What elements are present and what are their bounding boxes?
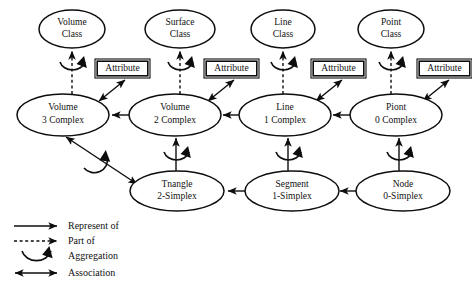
simplex-node-node[interactable]: Node 0-Simplex [356,171,450,211]
legend-item-represent-of: Represent of [14,220,119,231]
simplex-node-tnangle-line1: Tnangle [161,179,192,189]
attribute-box-4[interactable]: Attribute [417,59,472,78]
aggregation-arrowhead-point [395,55,409,68]
legend-item-association: Association [15,267,115,278]
complex-node-line-1-line2: 1 Complex [264,115,306,125]
attribute-box-1[interactable]: Attribute [95,59,150,78]
legend-item-part-of: Part of [14,235,96,246]
complex-node-volume-2-line1: Volume [160,102,189,112]
caption-strip [0,279,472,291]
legend-item-aggregation: Aggregation [22,245,118,261]
complex-node-volume-3-line2: 3 Complex [42,115,84,125]
attribute-box-3-label: Attribute [321,63,355,73]
simplex-node-segment-line2: 1-Simplex [272,191,312,201]
represent-of-triangle-to-volume2 [164,138,194,171]
class-node-volume-line2: Class [62,29,83,39]
aggregation-arrowhead-volume3 [99,149,111,161]
attribute-box-1-label: Attribute [105,63,139,73]
aggregation-arrowhead-icon [42,245,56,259]
legend-item-association-label: Association [68,267,115,278]
attribute-box-2-label: Attribute [214,63,248,73]
class-node-line[interactable]: Line Class [251,10,315,48]
class-node-line-line2: Class [273,29,294,39]
class-node-surface[interactable]: Surface Class [145,10,215,48]
simplex-node-segment[interactable]: Segment 1-Simplex [245,171,339,211]
legend-item-aggregation-label: Aggregation [68,250,118,261]
aggregation-arrowhead-line1 [292,145,306,158]
aggregation-arrowhead-volume2 [180,145,194,158]
legend-item-part-of-label: Part of [68,235,96,246]
simplex-node-tnangle[interactable]: Tnangle 2-Simplex [130,171,224,211]
association-attribute-2 [208,80,234,101]
attribute-box-2[interactable]: Attribute [204,59,259,78]
aggregation-arrowhead-piont0 [403,145,417,158]
represent-of-node-to-piont0 [387,138,417,171]
complex-node-piont-0-line2: 0 Complex [375,115,417,125]
class-node-point[interactable]: Point Class [358,10,424,48]
class-node-surface-line1: Surface [165,17,194,27]
class-node-point-line1: Point [381,17,401,27]
complex-node-volume-2[interactable]: Volume 2 Complex [129,94,221,136]
part-of-link-surface [168,51,198,94]
aggregation-arrowhead-surface [184,55,198,68]
legend-item-represent-of-label: Represent of [68,220,119,231]
part-of-link-volume [60,51,90,94]
class-node-point-line2: Class [381,29,402,39]
complex-node-piont-0[interactable]: Piont 0 Complex [350,94,442,136]
class-node-line-line1: Line [274,17,291,27]
aggregation-arrowhead-volume [76,55,90,68]
complex-node-line-1[interactable]: Line 1 Complex [239,94,331,136]
class-node-surface-line2: Class [170,29,191,39]
class-node-volume[interactable]: Volume Class [39,10,105,48]
complex-node-volume-2-line2: 2 Complex [154,115,196,125]
simplex-node-tnangle-line2: 2-Simplex [157,191,197,201]
part-of-link-point [379,51,409,94]
association-triangle-to-volume3 [66,137,137,184]
simplex-node-node-line2: 0-Simplex [383,191,423,201]
association-attribute-4 [423,80,449,101]
attribute-box-3[interactable]: Attribute [311,59,366,78]
association-attribute-3 [316,80,342,101]
complex-node-line-1-line1: Line [276,102,293,112]
complex-node-volume-3[interactable]: Volume 3 Complex [17,94,109,136]
class-hierarchy-diagram: Volume Class Surface Class Line Class Po… [0,0,472,291]
simplex-node-node-line1: Node [393,179,414,189]
represent-of-segment-to-line1 [276,138,306,171]
complex-node-piont-0-line1: Piont [386,102,406,112]
legend: Represent of Part of Aggregation Associa… [14,220,119,278]
complex-node-volume-3-line1: Volume [48,102,77,112]
attribute-box-4-label: Attribute [427,63,461,73]
association-attribute-1 [99,80,125,101]
part-of-link-line [271,51,301,94]
aggregation-arrowhead-line [287,55,301,68]
class-node-volume-line1: Volume [57,17,86,27]
simplex-node-segment-line1: Segment [275,179,309,189]
